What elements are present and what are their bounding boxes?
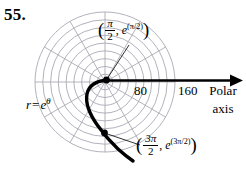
equation-exponent-theta: θ xyxy=(46,96,50,106)
marker-point-pi-over-2 xyxy=(103,77,110,84)
close-paren: ) xyxy=(191,134,197,155)
problem-number: 55. xyxy=(4,6,26,23)
axis-title-line-1: Polar xyxy=(209,83,236,98)
comma-bottom: , xyxy=(159,138,162,152)
axis-tick-label-80: 80 xyxy=(134,84,147,97)
equation-equals-sign: = xyxy=(32,97,39,112)
curve-equation-label: r=eθ xyxy=(26,98,51,111)
polar-graph-figure: 55. (π2, e(π/2)) (3π2, e(3π/2)) r=eθ 80 … xyxy=(0,0,246,183)
open-paren: ( xyxy=(136,134,142,155)
comma-top: , xyxy=(116,23,119,37)
axis-tick-label-160: 160 xyxy=(178,84,198,97)
polar-axis-title: Polar axis xyxy=(201,84,245,115)
theta-denominator-top: 2 xyxy=(105,30,115,43)
open-paren: ( xyxy=(98,19,104,40)
theta-denominator-bottom: 2 xyxy=(143,145,158,158)
theta-numerator-bottom: 3π xyxy=(143,133,158,145)
theta-fraction-top: π2 xyxy=(105,18,115,42)
annotation-point-3pi-over-2: (3π2, e(3π/2)) xyxy=(136,134,197,158)
theta-numerator-top: π xyxy=(105,18,115,30)
equation-variable-r: r xyxy=(26,97,31,112)
annotation-point-pi-over-2: (π2, e(π/2)) xyxy=(98,19,149,43)
marker-point-3pi-over-2 xyxy=(101,130,108,137)
close-paren: ) xyxy=(143,19,149,40)
axis-title-line-2: axis xyxy=(201,102,245,115)
radius-exponent-bottom: (3π/2) xyxy=(171,137,191,146)
theta-fraction-bottom: 3π2 xyxy=(143,133,158,157)
radius-exponent-top: (π/2) xyxy=(127,22,143,31)
